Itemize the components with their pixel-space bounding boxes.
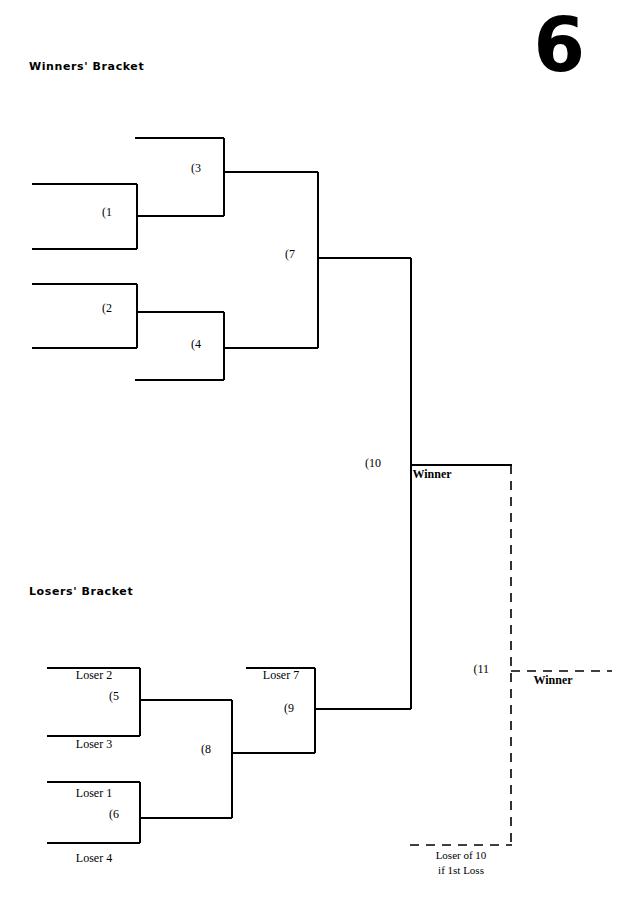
game-number-labels: (1(2(3(4(7(10(5(6(8(9(11: [102, 161, 489, 821]
game-label-g9: (9: [284, 701, 294, 715]
bracket-dashed-lines: [410, 465, 612, 845]
game-label-g6: (6: [109, 807, 119, 821]
game-label-g5: (5: [109, 689, 119, 703]
slot-label-2: Loser 1: [76, 786, 112, 800]
winners-outcome-label: Winner: [412, 467, 452, 481]
slot-label-0: Loser 2: [76, 668, 112, 682]
final-outcome-label: Winner: [533, 673, 573, 687]
game-label-g10: (10: [365, 456, 381, 470]
bracket-page: Winners' Bracket Losers' Bracket 6 (1(2(…: [0, 0, 621, 907]
slot-label-3: Loser 4: [76, 851, 112, 865]
game-label-g11: (11: [473, 662, 489, 676]
outcome-labels: WinnerWinner: [412, 467, 573, 687]
game-label-g1: (1: [102, 205, 112, 219]
game-label-g3: (3: [191, 161, 201, 175]
game-label-g2: (2: [102, 301, 112, 315]
note-labels: Loser of 10if 1st Loss: [436, 849, 487, 876]
note-label-1: if 1st Loss: [438, 864, 484, 876]
game-label-g7: (7: [285, 247, 295, 261]
slot-label-4: Loser 7: [263, 668, 299, 682]
bracket-diagram: (1(2(3(4(7(10(5(6(8(9(11 Loser 2Loser 3L…: [0, 0, 621, 907]
note-label-0: Loser of 10: [436, 849, 487, 861]
slot-label-1: Loser 3: [76, 737, 112, 751]
game-label-g4: (4: [191, 337, 201, 351]
game-label-g8: (8: [201, 742, 211, 756]
